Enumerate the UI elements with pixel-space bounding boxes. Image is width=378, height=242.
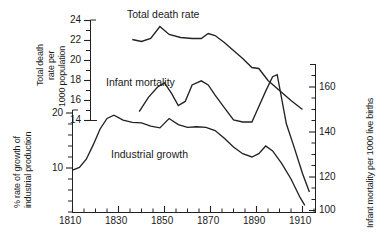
tick-year-1910: 1910 (289, 215, 311, 226)
series-annotation-total-death-rate: Total death rate (127, 8, 199, 20)
chart-canvas: % rate of growth of industrial productio… (0, 0, 378, 242)
axis-infant-mortality (309, 64, 316, 213)
tick-death-18: 18 (70, 74, 81, 85)
axis-label-industrial-production-line2: industrial production (24, 132, 34, 208)
tick-year-1810: 1810 (59, 215, 81, 226)
axis-label-death-rate-line1: Total death (36, 44, 46, 86)
tick-infant-100: 100 (319, 204, 336, 215)
tick-year-1870: 1870 (197, 215, 219, 226)
line-total-death-rate (132, 27, 302, 110)
tick-infant-140: 140 (319, 126, 336, 137)
tick-industrial-10: 10 (52, 162, 63, 173)
tick-industrial-20: 20 (52, 107, 63, 118)
tick-year-1890: 1890 (243, 215, 265, 226)
series-lines (73, 27, 310, 206)
tick-infant-120: 120 (319, 171, 336, 182)
axis-industrial-production (66, 110, 78, 213)
series-annotation-industrial-growth: Industrial growth (111, 148, 188, 160)
tick-death-22: 22 (70, 34, 81, 45)
tick-death-20: 20 (70, 54, 81, 65)
axis-label-infant-mortality: Infant mortality per 1000 live births (366, 98, 376, 228)
axis-label-death-rate-line3: 1000 population (58, 46, 68, 107)
tick-year-1830: 1830 (105, 215, 127, 226)
tick-infant-160: 160 (319, 81, 336, 92)
line-industrial-growth (73, 115, 305, 205)
axis-x-years (72, 206, 316, 213)
axis-death-rate (84, 20, 97, 121)
series-annotation-infant-mortality: Infant mortality (106, 76, 175, 88)
axis-label-industrial-production-line1: % rate of growth of (13, 136, 23, 208)
tick-death-24: 24 (70, 14, 81, 25)
line-infant-mortality (139, 75, 309, 192)
tick-death-16: 16 (70, 94, 81, 105)
axis-label-death-rate-line2: rate per (47, 51, 57, 80)
tick-death-14: 14 (70, 114, 81, 125)
tick-year-1850: 1850 (151, 215, 173, 226)
